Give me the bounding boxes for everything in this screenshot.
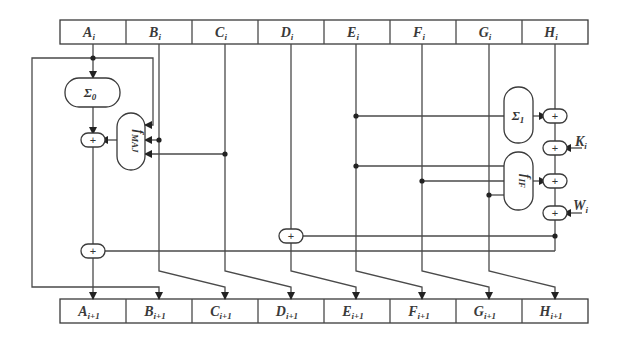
output-register-row: Ai+1 Bi+1 Ci+1 Di+1 Ei+1 Fi+1 Gi+1 Hi+1: [60, 299, 588, 323]
svg-text:+: +: [552, 175, 558, 187]
adder-h-sigma1: +: [543, 109, 567, 123]
k-input-label: Ki: [574, 134, 587, 151]
svg-text:+: +: [552, 110, 558, 122]
fmaj-block: fMAJ: [117, 113, 147, 170]
svg-text:+: +: [90, 134, 96, 146]
sigma1-block: Σ1: [504, 87, 533, 143]
adder-h-fif: +: [543, 174, 567, 188]
svg-text:+: +: [288, 230, 294, 242]
junction-dots: [90, 55, 557, 238]
adder-a-bottom: +: [81, 244, 105, 258]
svg-text:+: +: [90, 245, 96, 257]
svg-text:+: +: [552, 142, 558, 154]
adder-a-top: +: [81, 133, 105, 147]
svg-text:+: +: [552, 207, 558, 219]
sha2-round-diagram: Ai Bi Ci Di Ei Fi Gi Hi Ai+1 Bi+1 Ci+1 D…: [0, 0, 623, 339]
w-input-label: Wi: [573, 198, 588, 215]
fif-block: fIF: [504, 152, 534, 210]
adder-h-w: +: [543, 206, 567, 220]
adder-h-k: +: [543, 141, 567, 155]
adder-d: +: [279, 229, 303, 243]
input-register-row: Ai Bi Ci Di Ei Fi Gi Hi: [60, 20, 588, 44]
sigma0-block: Σ0: [65, 78, 120, 107]
